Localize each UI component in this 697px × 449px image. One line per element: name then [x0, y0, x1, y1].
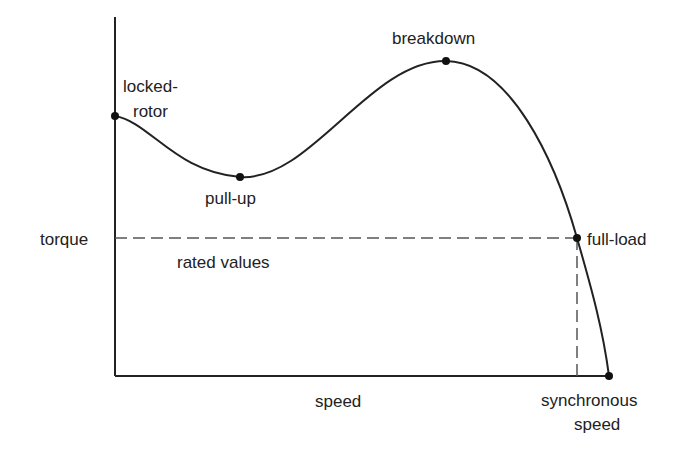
locked-rotor-label-line1: locked- — [123, 77, 178, 96]
torque-speed-diagram: locked- rotor pull-up breakdown full-loa… — [0, 0, 697, 449]
synchronous-speed-point — [605, 372, 613, 380]
breakdown-point — [442, 57, 450, 65]
full-load-point — [573, 234, 581, 242]
locked-rotor-point — [111, 112, 119, 120]
synchronous-speed-label-line2: speed — [574, 415, 620, 434]
breakdown-label: breakdown — [392, 29, 475, 48]
synchronous-speed-label-line1: synchronous — [541, 391, 637, 410]
pull-up-point — [236, 173, 244, 181]
speed-axis-label: speed — [315, 392, 361, 411]
torque-label: torque — [40, 230, 88, 249]
locked-rotor-label-line2: rotor — [133, 102, 168, 121]
full-load-label: full-load — [587, 230, 647, 249]
pull-up-label: pull-up — [205, 189, 256, 208]
torque-speed-curve — [115, 61, 609, 376]
rated-values-label: rated values — [177, 253, 270, 272]
